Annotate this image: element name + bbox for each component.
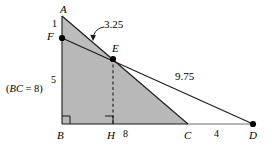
point-label-h: H: [107, 130, 115, 141]
measure-label-af: 1: [52, 19, 57, 29]
measure-label-fe: 3.25: [104, 19, 123, 30]
point-label-f: F: [47, 31, 54, 42]
geometry-canvas: [0, 0, 272, 147]
point-label-e: E: [112, 43, 119, 54]
figure-note-bc: BC: [10, 83, 23, 94]
measure-label-bc: 8: [123, 129, 128, 139]
point-dot-f: [59, 35, 65, 41]
figure-note: (BC = 8): [6, 84, 43, 95]
leader-arrowhead-3-25: [90, 35, 96, 41]
point-label-c: C: [184, 130, 191, 141]
point-dot-e: [110, 56, 116, 62]
figure-note-rest: = 8): [23, 83, 43, 94]
measure-label-ed: 9.75: [175, 71, 194, 82]
point-dot-d: [250, 121, 256, 127]
measure-label-cd: 4: [214, 129, 219, 139]
geometry-figure: A F E B H C D 1 5 3.25 9.75 8 4 (BC = 8): [0, 0, 272, 147]
point-label-d: D: [249, 130, 257, 141]
point-label-b: B: [57, 130, 64, 141]
point-label-a: A: [60, 4, 67, 15]
measure-label-fb: 5: [51, 75, 56, 85]
